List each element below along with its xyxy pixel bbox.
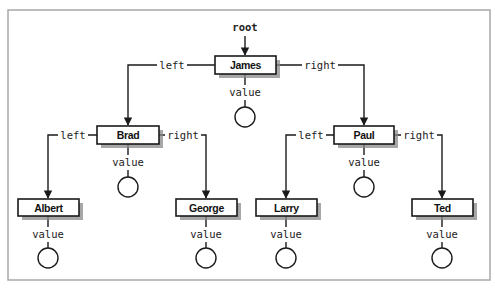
value-circle-george bbox=[196, 248, 216, 268]
edge-label-left: left bbox=[159, 59, 184, 71]
value-circle-paul bbox=[354, 177, 374, 197]
edge-label-value: value bbox=[426, 228, 458, 240]
edge-label-value: value bbox=[348, 156, 380, 168]
node-albert: Albert bbox=[18, 199, 83, 220]
node-label: Paul bbox=[354, 129, 375, 141]
edge-label-value: value bbox=[32, 228, 64, 240]
node-ted: Ted bbox=[412, 199, 477, 220]
node-label: Larry bbox=[274, 202, 299, 214]
node-label: George bbox=[189, 202, 224, 214]
value-circle-james bbox=[235, 107, 255, 127]
edge-label-right: right bbox=[304, 59, 336, 71]
value-circle-brad bbox=[118, 177, 138, 197]
edge-label-left: left bbox=[298, 129, 323, 141]
node-label: Albert bbox=[34, 202, 63, 214]
node-larry: Larry bbox=[256, 199, 321, 220]
edge-label-value: value bbox=[190, 228, 222, 240]
diagram-frame bbox=[8, 10, 490, 280]
edge-label-right: right bbox=[403, 129, 435, 141]
edge-label-value: value bbox=[229, 86, 261, 98]
node-james: James bbox=[215, 56, 280, 78]
node-label: James bbox=[230, 59, 262, 71]
node-label: Brad bbox=[117, 129, 140, 141]
value-circle-larry bbox=[276, 248, 296, 268]
value-circle-ted bbox=[432, 248, 452, 268]
node-brad: Brad bbox=[97, 126, 163, 148]
edge-label-right: right bbox=[167, 129, 199, 141]
node-label: Ted bbox=[434, 202, 451, 214]
node-paul: Paul bbox=[334, 126, 398, 148]
root-label: root bbox=[232, 21, 257, 33]
edge-label-value: value bbox=[112, 156, 144, 168]
edge-label-left: left bbox=[60, 129, 85, 141]
node-george: George bbox=[176, 199, 241, 220]
value-circle-albert bbox=[38, 248, 58, 268]
edge-label-value: value bbox=[270, 228, 302, 240]
binary-tree-diagram: root left right value left right value bbox=[0, 0, 495, 288]
